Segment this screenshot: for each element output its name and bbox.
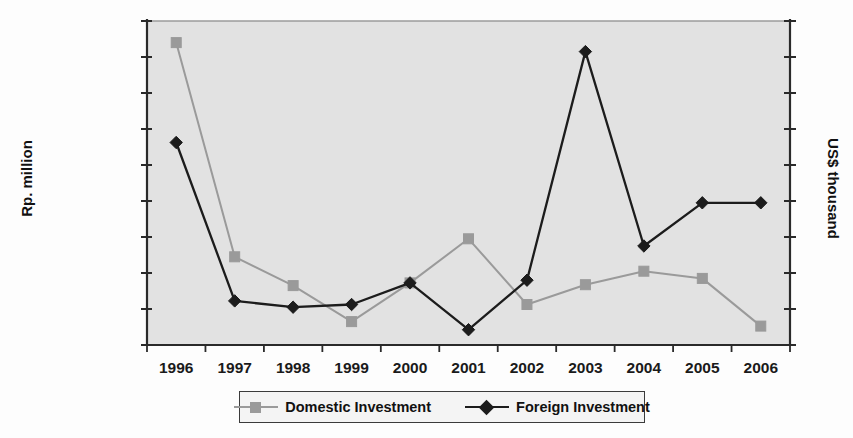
data-point-marker bbox=[697, 273, 707, 283]
legend-label-foreign: Foreign Investment bbox=[516, 399, 650, 415]
legend-item-foreign: Foreign Investment bbox=[465, 399, 650, 415]
data-point-marker bbox=[522, 300, 532, 310]
data-point-marker bbox=[230, 252, 240, 262]
chart-figure: Rp. million US$ thousand 020000004000000… bbox=[0, 0, 853, 438]
plot-background bbox=[147, 21, 790, 345]
data-point-marker bbox=[756, 321, 766, 331]
legend-label-domestic: Domestic Investment bbox=[285, 399, 431, 415]
data-point-marker bbox=[347, 317, 357, 327]
data-point-marker bbox=[171, 38, 181, 48]
legend-item-domestic: Domestic Investment bbox=[234, 399, 431, 415]
plot-area bbox=[0, 0, 853, 438]
chart-legend: Domestic Investment Foreign Investment bbox=[239, 391, 645, 423]
legend-swatch-foreign-icon bbox=[465, 400, 509, 414]
data-point-marker bbox=[639, 266, 649, 276]
legend-swatch-domestic-icon bbox=[234, 400, 278, 414]
data-point-marker bbox=[288, 281, 298, 291]
data-point-marker bbox=[580, 280, 590, 290]
data-point-marker bbox=[464, 234, 474, 244]
